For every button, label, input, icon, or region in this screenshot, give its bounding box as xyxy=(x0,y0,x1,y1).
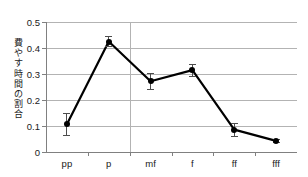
y-tick-label: 0.2 xyxy=(27,95,40,106)
y-tick-label: 0.3 xyxy=(27,69,40,80)
x-tick-label: p xyxy=(106,158,111,169)
series-line xyxy=(46,22,297,153)
x-tick-label: pp xyxy=(62,158,73,169)
error-bar-cap xyxy=(147,73,154,74)
error-bar-cap xyxy=(63,135,70,136)
x-tick-label: fff xyxy=(272,158,280,169)
error-bar-cap xyxy=(105,46,112,47)
error-bar-cap xyxy=(231,123,238,124)
x-tick-label: ff xyxy=(232,158,237,169)
y-tick-label: 0 xyxy=(35,147,40,158)
error-bar-cap xyxy=(231,136,238,137)
data-point xyxy=(231,127,237,133)
y-tick-label: 0.1 xyxy=(27,121,40,132)
data-point xyxy=(273,138,279,144)
x-tick-label: mf xyxy=(145,158,156,169)
data-point xyxy=(106,39,112,45)
error-bar-cap xyxy=(105,36,112,37)
error-bar-cap xyxy=(63,113,70,114)
y-tick-label: 0.4 xyxy=(27,43,40,54)
chart-container: 費やす時間の割合 00.10.20.30.40.5 pppmfffffff xyxy=(0,0,308,177)
plot-area: 00.10.20.30.40.5 pppmfffffff xyxy=(46,22,297,152)
error-bar-cap xyxy=(147,89,154,90)
error-bar-cap xyxy=(189,76,196,77)
y-tick-label: 0.5 xyxy=(27,17,40,28)
x-tick-label: f xyxy=(191,158,194,169)
data-point xyxy=(148,78,154,84)
error-bar-cap xyxy=(189,64,196,65)
y-axis-label: 費やす時間の割合 xyxy=(10,38,26,120)
